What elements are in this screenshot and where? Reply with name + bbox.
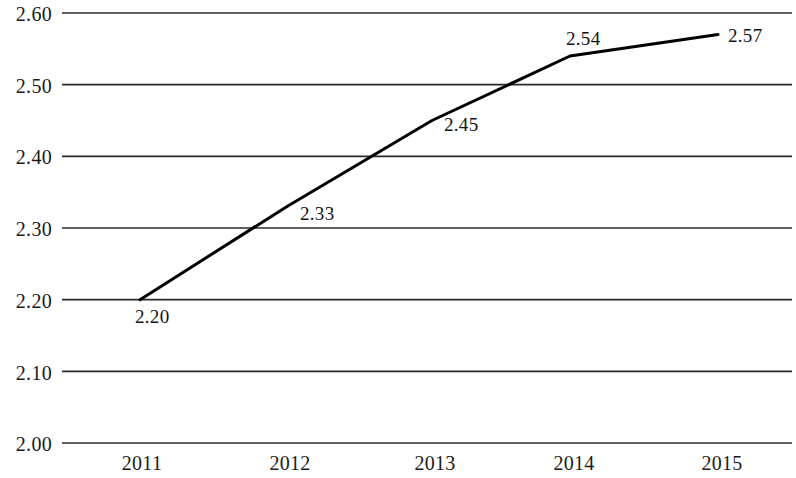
y-axis-tick-label: 2.50 bbox=[0, 75, 52, 98]
gridlines-group bbox=[62, 13, 792, 443]
y-axis-tick-label: 2.00 bbox=[0, 433, 52, 456]
x-axis-tick-label: 2015 bbox=[672, 452, 772, 475]
data-point-label: 2.54 bbox=[566, 28, 600, 50]
data-point-label: 2.57 bbox=[728, 25, 762, 47]
y-axis-tick-label: 2.10 bbox=[0, 362, 52, 385]
x-axis-tick-label: 2011 bbox=[92, 452, 192, 475]
x-axis-tick-label: 2013 bbox=[385, 452, 485, 475]
y-axis-tick-label: 2.40 bbox=[0, 146, 52, 169]
plot-area bbox=[0, 0, 796, 478]
x-axis-tick-label: 2014 bbox=[524, 452, 624, 475]
line-chart-svg bbox=[0, 0, 796, 478]
data-point-label: 2.33 bbox=[300, 203, 334, 225]
x-axis-tick-label: 2012 bbox=[240, 452, 340, 475]
data-point-label: 2.45 bbox=[444, 114, 478, 136]
y-axis-tick-label: 2.60 bbox=[0, 3, 52, 26]
y-axis-tick-label: 2.20 bbox=[0, 290, 52, 313]
data-line-series-1 bbox=[140, 35, 718, 300]
y-axis-tick-label: 2.30 bbox=[0, 218, 52, 241]
data-point-label: 2.20 bbox=[135, 306, 169, 328]
chart-container: 2.60 2.50 2.40 2.30 2.20 2.10 2.00 2011 … bbox=[0, 0, 796, 478]
